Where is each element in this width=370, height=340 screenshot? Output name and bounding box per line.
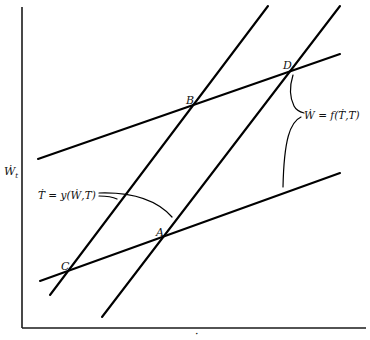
point-d-label: D — [282, 59, 292, 72]
point-c-label: C — [61, 260, 70, 273]
right-steep-line — [102, 6, 340, 317]
economic-diagram: Ẇt · B D C A Ẇ = f(Ṫ,T) Ṫ = y(Ẇ,T) — [0, 0, 370, 340]
w-equation-brace-lower — [283, 117, 301, 187]
left-steep-line — [50, 6, 268, 295]
t-equation-label: Ṫ = y(Ẇ,T) — [38, 188, 96, 201]
w-equation-label: Ẇ = f(Ṫ,T) — [304, 108, 360, 121]
x-axis-label: · — [195, 328, 199, 340]
w-equation-brace-upper — [290, 75, 304, 113]
point-a-label: A — [155, 226, 164, 239]
t-equation-leader-lower — [99, 196, 117, 199]
point-b-label: B — [185, 94, 194, 107]
y-axis-label: Ẇt — [4, 164, 18, 180]
diagram-canvas: Ẇt · B D C A Ẇ = f(Ṫ,T) Ṫ = y(Ẇ,T) — [0, 0, 370, 340]
